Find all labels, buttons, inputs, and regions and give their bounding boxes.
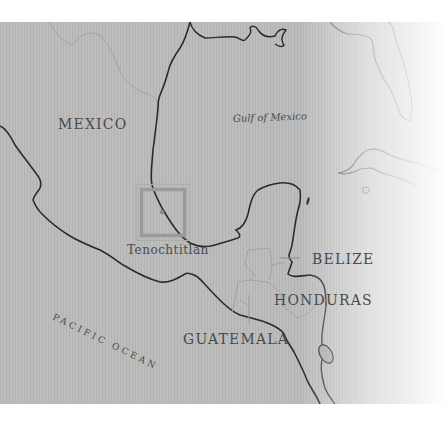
tenochtitlan-marker[interactable] [160,210,164,214]
map: MEXICO Gulf of Mexico Tenochtitlan BELIZ… [0,22,448,404]
right-fade [300,22,448,404]
label-guatemala: GUATEMALA [183,331,289,347]
label-mexico: MEXICO [58,116,127,132]
label-tenochtitlan: Tenochtitlan [127,243,209,257]
map-canvas: MEXICO Gulf of Mexico Tenochtitlan BELIZ… [0,22,448,404]
label-belize: BELIZE [312,251,374,267]
label-honduras: HONDURAS [274,292,373,308]
